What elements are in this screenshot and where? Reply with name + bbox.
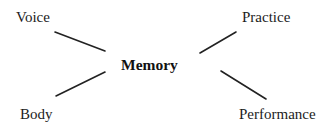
- memory-concept-diagram: Voice Practice Memory Body Performance: [0, 0, 326, 127]
- edge-voice-memory: [55, 32, 105, 51]
- node-memory-center: Memory: [121, 56, 178, 73]
- node-voice: Voice: [16, 9, 50, 26]
- node-practice: Practice: [242, 9, 290, 26]
- node-performance: Performance: [239, 106, 316, 123]
- edge-practice-memory: [200, 32, 236, 53]
- edge-body-memory: [56, 72, 105, 96]
- node-body: Body: [20, 106, 53, 123]
- edge-performance-memory: [221, 71, 266, 99]
